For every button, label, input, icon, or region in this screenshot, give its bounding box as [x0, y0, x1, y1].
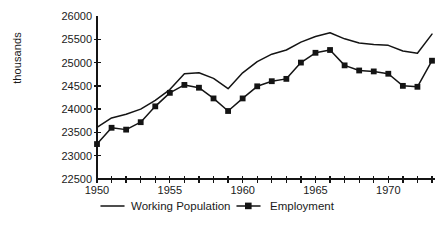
x-tick-label: 1950 [85, 184, 109, 196]
data-point-marker [327, 47, 333, 53]
chart-figure: thousands 225002300023500240002450025000… [0, 0, 443, 232]
data-point-marker [254, 83, 260, 89]
data-point-marker [138, 119, 144, 125]
data-point-marker [225, 108, 231, 114]
chart-legend: Working Population Employment [101, 200, 335, 212]
data-point-marker [283, 76, 289, 82]
x-tick-label: 1965 [303, 184, 327, 196]
legend-label-working-population: Working Population [131, 200, 231, 212]
data-point-marker [181, 82, 187, 88]
data-point-marker [196, 85, 202, 91]
data-point-marker [167, 90, 173, 96]
y-tick-label: 25500 [61, 33, 92, 45]
y-tick-label: 23500 [61, 126, 92, 138]
data-point-marker [313, 50, 319, 56]
series-line-employment [97, 50, 432, 144]
data-point-marker [385, 71, 391, 77]
data-point-marker [94, 141, 100, 147]
line-chart-plot: 2250023000235002400024500250002550026000… [0, 0, 443, 232]
x-tick-label: 1970 [376, 184, 400, 196]
data-point-marker [356, 68, 362, 74]
y-axis-tick-labels: 2250023000235002400024500250002550026000 [61, 10, 92, 185]
x-axis-tick-labels: 19501955196019651970 [85, 184, 401, 196]
data-point-marker [415, 84, 421, 90]
data-point-marker [342, 62, 348, 68]
y-tick-label: 23000 [61, 150, 92, 162]
data-point-marker [269, 78, 275, 84]
legend-label-employment: Employment [270, 200, 335, 212]
x-tick-label: 1955 [158, 184, 182, 196]
y-tick-label: 25000 [61, 57, 92, 69]
data-point-marker [123, 127, 129, 133]
data-point-marker [429, 58, 435, 64]
data-point-marker [371, 69, 377, 75]
data-point-marker [298, 60, 304, 66]
y-tick-label: 24500 [61, 80, 92, 92]
y-tick-label: 24000 [61, 103, 92, 115]
data-point-marker [211, 96, 217, 102]
x-tick-label: 1960 [230, 184, 254, 196]
y-tick-label: 26000 [61, 10, 92, 22]
data-point-marker [400, 83, 406, 89]
series-markers-employment [94, 47, 435, 147]
data-point-marker [109, 125, 115, 131]
series-line-working-population [97, 33, 432, 128]
data-point-marker [240, 96, 246, 102]
data-point-marker [152, 103, 158, 109]
legend-marker-employment [245, 203, 252, 210]
